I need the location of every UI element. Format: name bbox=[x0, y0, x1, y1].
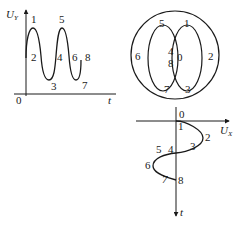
circle-diagram: 5 1 6 2 4 8 0 7 3 bbox=[131, 11, 219, 99]
circle-label-3: 3 bbox=[185, 83, 191, 95]
bottom-label-8: 8 bbox=[178, 174, 184, 186]
label-2: 2 bbox=[31, 51, 37, 63]
label-8: 8 bbox=[85, 51, 91, 63]
t-axis-label-bottom: t bbox=[180, 206, 184, 218]
bottom-label-2: 2 bbox=[205, 131, 211, 143]
ux-axis-label: UX bbox=[220, 124, 233, 138]
circle-label-2: 2 bbox=[208, 50, 214, 62]
bottom-label-7: 7 bbox=[162, 173, 168, 185]
outer-circle bbox=[131, 11, 219, 99]
label-6: 6 bbox=[72, 51, 78, 63]
left-ellipse bbox=[148, 25, 178, 91]
bottom-label-5: 5 bbox=[156, 143, 162, 155]
bottom-label-3: 3 bbox=[190, 140, 196, 152]
circle-label-6: 6 bbox=[135, 50, 141, 62]
bottom-label-6: 6 bbox=[145, 159, 151, 171]
bottom-label-1: 1 bbox=[178, 120, 184, 132]
label-4: 4 bbox=[57, 51, 63, 63]
circle-label-1: 1 bbox=[184, 17, 190, 29]
circle-label-5: 5 bbox=[159, 17, 165, 29]
label-5: 5 bbox=[59, 13, 65, 25]
origin-label-bottom: 0 bbox=[179, 108, 185, 120]
diagram-canvas: UY 0 t 1 2 3 4 5 6 7 8 5 1 6 2 4 8 0 7 3… bbox=[0, 0, 242, 227]
uy-axis-label: UY bbox=[6, 8, 19, 22]
uy-time-plot: UY 0 t 1 2 3 4 5 6 7 8 bbox=[6, 8, 116, 106]
t-axis-label: t bbox=[108, 94, 112, 106]
ux-time-plot: 0 UX t 1 2 3 4 5 6 7 8 bbox=[136, 107, 233, 218]
origin-label: 0 bbox=[16, 94, 22, 106]
bottom-label-4: 4 bbox=[168, 143, 174, 155]
label-1: 1 bbox=[31, 13, 37, 25]
circle-label-0: 0 bbox=[177, 51, 183, 63]
circle-label-4: 4 bbox=[168, 45, 174, 57]
circle-label-8: 8 bbox=[168, 57, 174, 69]
circle-label-7: 7 bbox=[164, 83, 170, 95]
label-3: 3 bbox=[51, 80, 57, 92]
label-7: 7 bbox=[82, 79, 88, 91]
